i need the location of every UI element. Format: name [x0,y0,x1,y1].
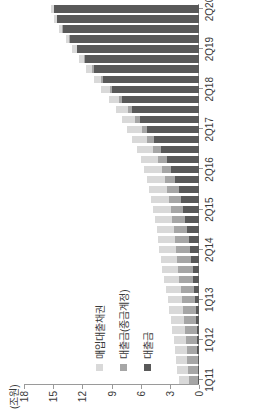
bar-segment [144,166,162,173]
bar-segment [127,126,142,133]
bar-segment [168,296,182,303]
value-tick [82,385,83,389]
bar-segment [193,266,199,273]
value-tick [199,385,200,389]
category-tick [199,249,203,250]
bar-segment [174,336,186,343]
value-tick-label: 6 [135,391,146,397]
bar-segment [187,346,198,353]
legend-label: 대출금(종금계정) [116,289,131,359]
category-tick [199,88,203,89]
bar-2Q13 [166,286,199,293]
bar-segment [198,356,199,363]
bar-segment [141,156,158,163]
bar-1Q18 [109,96,199,103]
value-tick-label: 12 [77,391,88,402]
bar-1Q13 [168,296,199,303]
bar-segment [195,296,199,303]
bar-segment [196,306,200,313]
legend-swatch-icon [144,364,151,371]
bar-segment [175,236,189,243]
bar-1Q12 [174,336,199,343]
category-tick [199,339,203,340]
bar-segment [181,196,199,203]
bar-segment [172,326,185,333]
legend-item[interactable]: 대출금 [140,289,155,371]
bar-2Q12 [172,326,199,333]
bar-segment [167,186,179,193]
bar-segment [171,206,184,213]
bar-segment [158,236,175,243]
legend-label: 매입대출채권 [92,305,107,359]
bar-segment [188,366,198,373]
bar-segment [183,206,199,213]
bar-segment [161,146,199,153]
bar-segment [147,126,199,133]
bar-segment [153,206,171,213]
bar-segment [158,156,167,163]
bar-segment [140,116,199,123]
bar-segment [112,86,199,93]
bar-segment [151,196,169,203]
bar-segment [183,306,196,313]
bar-segment [57,15,199,22]
bar-2Q19 [72,45,199,52]
chart-legend: 매입대출채권대출금(종금계정)대출금 [92,289,155,371]
category-tick-label: 2Q15 [204,197,215,221]
bar-segment [94,76,101,83]
bar-3Q12 [171,316,199,323]
bar-segment [164,276,179,283]
bar-segment [167,156,199,163]
bar-segment [162,266,178,273]
bar-segment [94,65,199,72]
bar-3Q17 [122,116,199,123]
category-tick [199,48,203,49]
bar-4Q11 [175,346,199,353]
bar-4Q18 [86,65,199,72]
bar-segment [153,146,161,153]
bar-1Q17 [132,136,199,143]
bar-segment [179,276,193,283]
rotated-figure-wrapper: (조원) 0369121518 1Q111Q121Q132Q142Q152Q16… [0,0,255,415]
bar-segment [198,366,199,373]
value-tick [53,385,54,389]
bar-segment [122,96,199,103]
bar-segment [186,336,197,343]
legend-item[interactable]: 대출금(종금계정) [116,289,131,371]
bar-3Q19 [66,35,199,42]
bar-segment [63,25,199,32]
bar-segment [191,256,199,263]
category-tick [199,209,203,210]
bar-segment [132,106,199,113]
bar-3Q16 [141,156,199,163]
category-tick-label: 2Q16 [204,157,215,181]
bar-segment [179,376,189,383]
legend-item[interactable]: 매입대출채권 [92,289,107,371]
category-tick [199,299,203,300]
category-tick-label: 2Q20 [204,0,215,21]
bar-3Q11 [176,356,199,363]
bar-segment [198,376,199,383]
bar-2Q20 [51,5,199,12]
bar-segment [166,286,181,293]
bar-segment [182,296,195,303]
category-tick [199,168,203,169]
bar-segment [177,256,192,263]
bar-3Q15 [151,196,199,203]
bar-1Q14 [161,256,199,263]
bar-segment [196,316,199,323]
bar-2Q18 [101,86,199,93]
bar-segment [187,226,199,233]
bar-segment [109,96,119,103]
category-tick-label: 1Q13 [204,288,215,312]
bar-segment [189,236,199,243]
bar-segment [161,256,177,263]
bar-segment [149,186,167,193]
bar-segment [193,276,199,283]
bar-4Q13 [162,266,199,273]
bar-segment [165,176,176,183]
bar-segment [162,166,172,173]
bar-1Q11 [179,376,199,383]
bar-3Q14 [158,236,199,243]
bar-2Q16 [144,166,199,173]
